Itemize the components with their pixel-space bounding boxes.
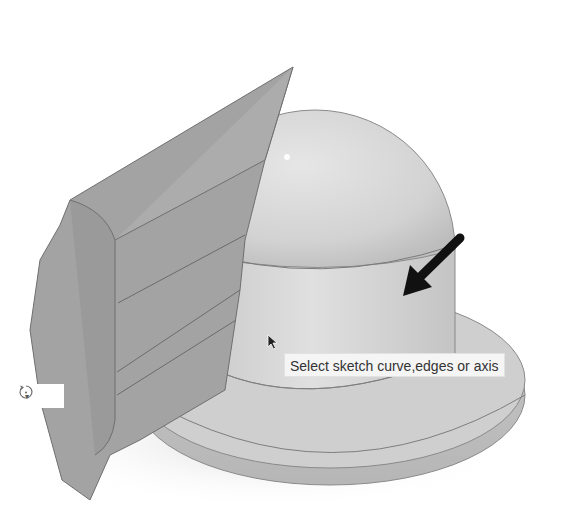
specular-highlight xyxy=(284,154,290,160)
orbit-control[interactable]: ▾ xyxy=(18,384,64,408)
model-canvas[interactable] xyxy=(0,0,564,517)
3d-viewport[interactable]: Select sketch curve,edges or axis ▾ xyxy=(0,0,564,517)
selection-tooltip: Select sketch curve,edges or axis xyxy=(284,353,505,377)
